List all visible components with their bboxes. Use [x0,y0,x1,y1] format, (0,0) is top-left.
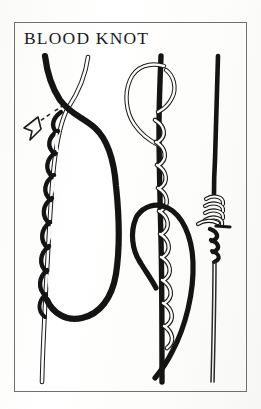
panel-3-tightened-finished-knot-step [196,50,246,390]
illustration-page: BLOOD KNOT [0,0,261,409]
panel-1-wrap-standing-line-step [16,50,82,390]
page-title: BLOOD KNOT [24,28,149,49]
panel-2-pass-tag-end-through-loop-step [122,50,200,390]
